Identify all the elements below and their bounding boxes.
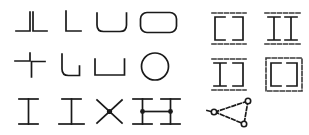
figure-canvas [0, 0, 309, 135]
shape-catalogue-figure [0, 0, 309, 135]
figure-background [0, 0, 309, 135]
